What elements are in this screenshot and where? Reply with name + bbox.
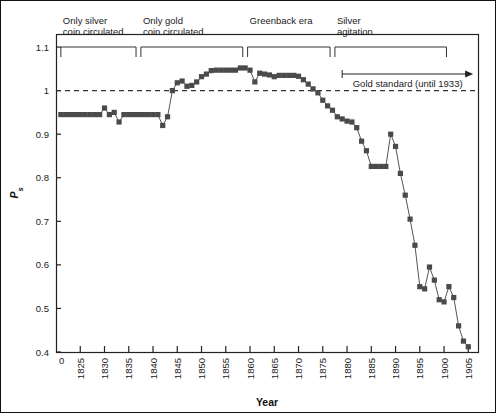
- data-point: [466, 344, 471, 349]
- data-point: [359, 139, 364, 144]
- data-point: [189, 83, 194, 88]
- gold-standard-label: Gold standard (until 1933): [353, 78, 463, 89]
- data-point: [257, 71, 262, 76]
- data-point: [112, 110, 117, 115]
- era-label-line2-1: coin circulated: [143, 26, 204, 37]
- data-point: [107, 112, 112, 117]
- data-point: [388, 132, 393, 137]
- data-point: [267, 72, 272, 77]
- data-point: [228, 68, 233, 73]
- data-point: [184, 84, 189, 89]
- data-point: [369, 164, 374, 169]
- data-point: [83, 112, 88, 117]
- data-point: [223, 68, 228, 73]
- y-tick-label: 0.6: [36, 259, 49, 270]
- x-tick-label: 1855: [220, 358, 231, 379]
- data-point: [126, 112, 131, 117]
- data-point: [102, 105, 107, 110]
- data-point: [116, 119, 121, 124]
- data-point: [301, 77, 306, 82]
- data-point: [407, 217, 412, 222]
- x-tick-label: 1865: [269, 358, 280, 379]
- data-point: [78, 112, 83, 117]
- data-point: [277, 73, 282, 78]
- data-point: [417, 284, 422, 289]
- era-label-line1-0: Only silver: [63, 15, 107, 26]
- x-tick-label: 1830: [99, 358, 110, 379]
- data-point: [393, 144, 398, 149]
- x-tick-label: 1850: [196, 358, 207, 379]
- x-tick-label: 1860: [245, 358, 256, 379]
- data-point: [315, 90, 320, 95]
- data-point: [243, 65, 248, 70]
- data-point: [165, 114, 170, 119]
- silver-price-line-chart: 0.40.50.60.70.80.911.1182518301835184018…: [0, 0, 496, 413]
- data-point: [199, 74, 204, 79]
- data-point: [451, 295, 456, 300]
- data-point: [262, 71, 267, 76]
- x-tick-label: 1875: [317, 358, 328, 379]
- data-point: [398, 171, 403, 176]
- x-origin-label: 0: [59, 355, 64, 366]
- x-tick-label: 1890: [390, 358, 401, 379]
- data-point: [141, 112, 146, 117]
- data-point: [427, 264, 432, 269]
- data-point: [310, 86, 315, 91]
- data-point: [233, 68, 238, 73]
- data-point: [461, 339, 466, 344]
- data-point: [150, 112, 155, 117]
- data-point: [446, 284, 451, 289]
- data-point: [155, 112, 160, 117]
- data-point: [131, 112, 136, 117]
- data-point: [422, 286, 427, 291]
- era-label-line2-3: agitation: [337, 26, 373, 37]
- x-tick-label: 1880: [342, 358, 353, 379]
- data-point: [306, 82, 311, 87]
- data-point: [252, 79, 257, 84]
- y-tick-label: 0.9: [36, 129, 49, 140]
- era-label-line1-2: Greenback era: [250, 15, 314, 26]
- data-point: [58, 112, 63, 117]
- x-tick-label: 1900: [439, 358, 450, 379]
- x-tick-label: 1895: [414, 358, 425, 379]
- y-tick-label: 1: [44, 85, 49, 96]
- data-point: [272, 74, 277, 79]
- data-point: [354, 125, 359, 130]
- x-tick-label: 1840: [148, 358, 159, 379]
- x-tick-label: 1845: [172, 358, 183, 379]
- y-tick-label: 0.8: [36, 172, 49, 183]
- data-point: [218, 68, 223, 73]
- data-point: [383, 164, 388, 169]
- data-point: [160, 123, 165, 128]
- data-point: [344, 119, 349, 124]
- data-point: [320, 98, 325, 103]
- data-point: [378, 164, 383, 169]
- data-point: [437, 297, 442, 302]
- data-point: [296, 74, 301, 79]
- y-tick-label: 1.1: [36, 42, 49, 53]
- x-tick-label: 1825: [75, 358, 86, 379]
- era-label-line1-1: Only gold: [143, 15, 183, 26]
- x-tick-label: 1835: [123, 358, 134, 379]
- data-point: [213, 68, 218, 73]
- data-point: [325, 103, 330, 108]
- data-point: [374, 164, 379, 169]
- data-point: [121, 112, 126, 117]
- data-point: [68, 112, 73, 117]
- data-point: [412, 243, 417, 248]
- data-point: [175, 80, 180, 85]
- data-point: [92, 112, 97, 117]
- x-tick-label: 1870: [293, 358, 304, 379]
- era-label-line1-3: Silver: [337, 15, 361, 26]
- y-tick-label: 0.7: [36, 216, 49, 227]
- data-point: [349, 119, 354, 124]
- data-point: [209, 68, 214, 73]
- data-point: [247, 68, 252, 73]
- x-axis-title: Year: [256, 396, 278, 408]
- data-point: [432, 278, 437, 283]
- data-point: [403, 193, 408, 198]
- data-point: [170, 88, 175, 93]
- data-point: [87, 112, 92, 117]
- data-point: [441, 299, 446, 304]
- data-point: [180, 78, 185, 83]
